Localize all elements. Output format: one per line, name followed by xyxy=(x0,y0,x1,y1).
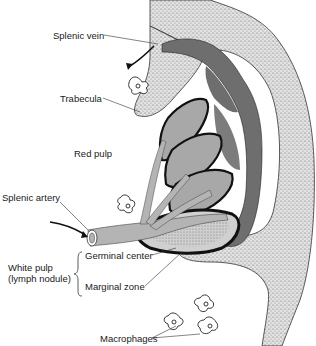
white-pulp-brace xyxy=(74,252,82,296)
diagram-artwork xyxy=(0,0,316,346)
label-splenic-artery: Splenic artery xyxy=(2,192,60,203)
label-trabecula: Trabecula xyxy=(60,93,102,104)
label-germinal-center: Germinal center xyxy=(85,250,153,261)
label-lymph-nodule: (lymph nodule) xyxy=(8,273,71,284)
label-red-pulp: Red pulp xyxy=(74,148,112,159)
spleen-diagram: Splenic vein Trabecula Red pulp Splenic … xyxy=(0,0,316,346)
label-marginal-zone: Marginal zone xyxy=(85,281,145,292)
label-splenic-vein: Splenic vein xyxy=(53,30,104,41)
label-white-pulp: White pulp xyxy=(8,262,53,273)
label-macrophages: Macrophages xyxy=(100,333,158,344)
artery-flow-arrow xyxy=(50,222,84,234)
